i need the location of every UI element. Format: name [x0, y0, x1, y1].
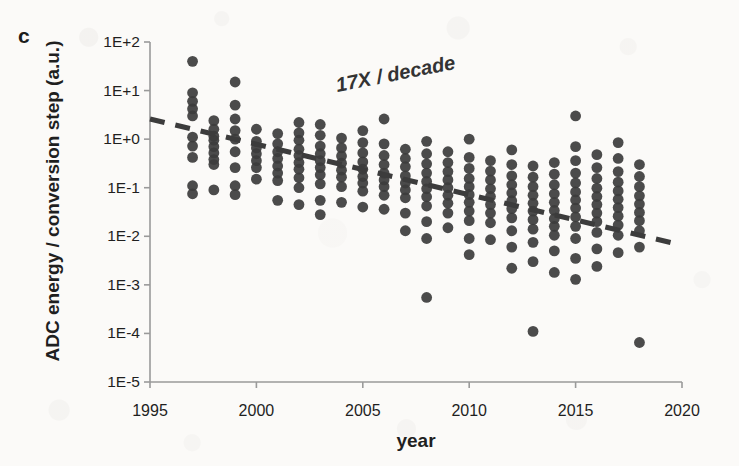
scatter-point	[421, 201, 432, 212]
scatter-point	[506, 225, 517, 236]
scatter-point	[315, 178, 326, 189]
scatter-point	[421, 148, 432, 159]
scatter-point	[570, 155, 581, 166]
scatter-point	[230, 146, 241, 157]
scatter-point	[379, 114, 390, 125]
scatter-point	[336, 172, 347, 183]
scatter-point	[570, 168, 581, 179]
scatter-point	[506, 145, 517, 156]
axes-lines	[150, 42, 682, 382]
scatter-point	[464, 163, 475, 174]
scatter-point	[400, 225, 411, 236]
scatter-point	[528, 172, 539, 183]
scatter-point	[485, 217, 496, 228]
scatter-point	[187, 188, 198, 199]
scatter-point	[591, 149, 602, 160]
scatter-point	[379, 138, 390, 149]
scatter-point	[485, 234, 496, 245]
scatter-point	[464, 249, 475, 260]
scatter-point	[187, 56, 198, 67]
scatter-point	[549, 230, 560, 241]
scatter-point	[230, 162, 241, 173]
scatter-point	[528, 224, 539, 235]
scatter-point	[272, 175, 283, 186]
scatter-point	[443, 198, 454, 209]
scatter-point	[549, 169, 560, 180]
scatter-point	[570, 253, 581, 264]
scatter-point	[464, 215, 475, 226]
scatter-point	[336, 197, 347, 208]
scatter-point	[634, 242, 645, 253]
scatter-point	[187, 152, 198, 163]
scatter-point	[464, 206, 475, 217]
scatter-point	[294, 182, 305, 193]
scatter-point	[208, 159, 219, 170]
scatter-point	[506, 263, 517, 274]
scatter-point	[443, 222, 454, 233]
scatter-point	[421, 292, 432, 303]
scatter-point	[591, 162, 602, 173]
scatter-point	[336, 181, 347, 192]
scatter-point	[528, 326, 539, 337]
scatter-point	[208, 185, 219, 196]
scatter-point	[549, 267, 560, 278]
scatter-point	[400, 144, 411, 155]
scatter-points	[187, 56, 645, 348]
scatter-point	[251, 174, 262, 185]
scatter-point	[421, 216, 432, 227]
scatter-point	[421, 233, 432, 244]
scatter-point	[464, 233, 475, 244]
scatter-point	[549, 157, 560, 168]
scatter-point	[570, 221, 581, 232]
scatter-point	[443, 208, 454, 219]
scatter-point	[272, 195, 283, 206]
scatter-point	[591, 227, 602, 238]
scatter-point	[315, 130, 326, 141]
scatter-point	[357, 202, 368, 213]
scatter-point	[315, 195, 326, 206]
scatter-point	[187, 141, 198, 152]
scatter-point	[336, 133, 347, 144]
scatter-point	[251, 124, 262, 135]
scatter-point	[506, 212, 517, 223]
scatter-point	[357, 186, 368, 197]
scatter-point	[634, 337, 645, 348]
scatter-point	[485, 155, 496, 166]
scatter-point	[549, 246, 560, 257]
scatter-point	[315, 209, 326, 220]
scatter-point	[187, 111, 198, 122]
scatter-point	[506, 159, 517, 170]
scatter-point	[357, 125, 368, 136]
scatter-point	[634, 171, 645, 182]
scatter-point	[230, 114, 241, 125]
scatter-point	[613, 166, 624, 177]
scatter-point	[294, 172, 305, 183]
scatter-point	[570, 141, 581, 152]
scatter-point	[570, 233, 581, 244]
scatter-point	[357, 137, 368, 148]
scatter-point	[230, 77, 241, 88]
scatter-point	[634, 159, 645, 170]
scatter-point	[528, 237, 539, 248]
scatter-point	[528, 161, 539, 172]
scatter-point	[230, 189, 241, 200]
scatter-point	[570, 111, 581, 122]
scatter-point	[421, 158, 432, 169]
scatter-point	[421, 136, 432, 147]
scatter-point	[464, 134, 475, 145]
scatter-point	[379, 190, 390, 201]
scatter-point	[379, 204, 390, 215]
scatter-point	[485, 208, 496, 219]
scatter-point	[613, 247, 624, 258]
scatter-point	[613, 153, 624, 164]
adc-energy-scatter-figure: c ADC energy / conversion step (a.u.) ye…	[0, 0, 739, 466]
scatter-point	[591, 173, 602, 184]
scatter-point	[591, 244, 602, 255]
scatter-point	[272, 128, 283, 139]
scatter-point	[400, 208, 411, 219]
scatter-point	[464, 152, 475, 163]
scatter-point	[421, 191, 432, 202]
scatter-point	[230, 100, 241, 111]
scatter-point	[294, 117, 305, 128]
scatter-point	[528, 214, 539, 225]
